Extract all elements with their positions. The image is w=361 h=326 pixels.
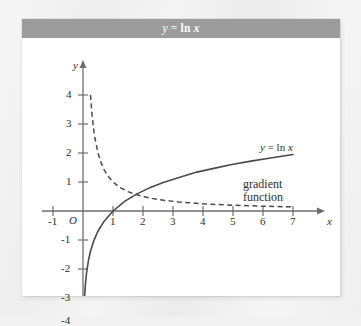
- figure-title-bar: y = ln x: [22, 19, 340, 38]
- x-tick-label--1: -1: [48, 216, 57, 227]
- x-tick-label-6: 6: [260, 216, 266, 227]
- title-equals: =: [168, 22, 181, 34]
- y-tick-label-4: 4: [66, 89, 72, 100]
- y-tick-label--3: -3: [61, 292, 70, 303]
- x-tick-label-3: 3: [170, 216, 176, 227]
- x-axis-arrow: [317, 208, 325, 215]
- figure-panel: y = ln x: [22, 19, 340, 296]
- y-tick-label--4: -4: [61, 315, 70, 326]
- title-x: x: [194, 22, 200, 34]
- annotation-gradient-line2: function: [243, 191, 283, 204]
- figure-title: y = ln x: [162, 23, 199, 35]
- y-axis-arrow: [80, 60, 87, 68]
- y-axis-label: y: [73, 60, 78, 71]
- title-ln: ln: [181, 22, 194, 34]
- plot-svg: [22, 38, 340, 296]
- annotation-ln-ln: ln: [277, 141, 288, 153]
- plot-area: -1 1 2 3 4 5 6 7 4 3 2 1 -1 -2 -3 -4 y x…: [22, 38, 340, 296]
- y-tick-label--2: -2: [61, 263, 70, 274]
- y-tick-label-2: 2: [66, 147, 72, 158]
- y-tick-label-3: 3: [66, 118, 72, 129]
- x-tick-label-2: 2: [140, 216, 146, 227]
- origin-label: O: [69, 215, 77, 226]
- annotation-ln-eq: =: [265, 141, 277, 153]
- annotation-ln-x: x: [288, 141, 293, 153]
- x-tick-label-5: 5: [230, 216, 236, 227]
- x-tick-label-7: 7: [290, 216, 296, 227]
- x-axis-label: x: [327, 216, 332, 227]
- y-tick-label-1: 1: [66, 176, 72, 187]
- annotation-ln-curve: y = ln x: [260, 142, 293, 153]
- x-tick-label-1: 1: [110, 216, 116, 227]
- y-tick-label--1: -1: [61, 234, 70, 245]
- x-tick-label-4: 4: [200, 216, 206, 227]
